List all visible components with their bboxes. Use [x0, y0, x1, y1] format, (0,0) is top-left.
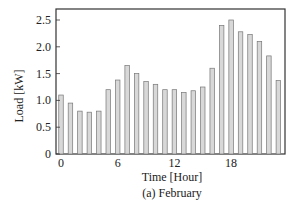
bar: [238, 32, 243, 154]
bar: [248, 34, 253, 154]
chart-caption: (a) February: [142, 186, 202, 200]
x-tick-label: 0: [58, 156, 64, 170]
bar: [182, 92, 187, 154]
bar: [267, 56, 272, 154]
bar: [115, 80, 120, 154]
bar: [163, 90, 168, 154]
bar: [276, 81, 281, 154]
bar: [106, 90, 111, 154]
y-axis-title: Load [kW]: [12, 70, 26, 123]
bar: [134, 74, 139, 154]
bar: [172, 90, 177, 154]
x-tick-label: 6: [115, 156, 121, 170]
y-tick-label: 0.5: [36, 120, 51, 134]
bar: [97, 111, 102, 154]
y-tick-label: 2.5: [36, 13, 51, 27]
y-tick-label: 1.0: [36, 93, 51, 107]
bar: [257, 41, 262, 154]
bar: [125, 66, 129, 154]
x-tick-label: 18: [225, 156, 237, 170]
bar: [210, 68, 215, 154]
bar: [87, 112, 92, 154]
x-tick-label: 12: [168, 156, 180, 170]
y-tick-label: 2.0: [36, 40, 51, 54]
bar: [68, 103, 73, 154]
bar: [219, 25, 224, 154]
y-tick-label: 0: [45, 147, 51, 161]
bars-group: [59, 20, 281, 154]
bar: [201, 87, 206, 154]
bar: [229, 20, 234, 154]
bar: [144, 82, 149, 154]
x-axis-ticks: 061218: [58, 156, 237, 170]
bar: [78, 111, 83, 154]
bar: [191, 91, 196, 154]
x-axis-title: Time [Hour]: [142, 170, 203, 184]
bar: [59, 95, 64, 154]
bar: [153, 84, 158, 154]
bar-chart: 00.51.01.52.02.5 061218 Time [Hour] (a) …: [0, 0, 298, 211]
y-tick-label: 1.5: [36, 67, 51, 81]
